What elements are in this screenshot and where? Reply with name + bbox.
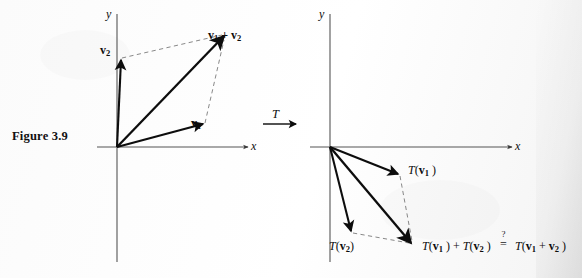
figure-caption: Figure 3.9 [12, 129, 68, 144]
label-sum-plus: + [218, 28, 231, 42]
label-sum-equation-lhs: T(v1 ) + T(v2 ) [422, 239, 491, 254]
figure-vector-graphics [0, 0, 582, 278]
label-question-equals-relation: ?= [500, 230, 507, 250]
right-panel-axes [310, 14, 512, 262]
label-v1-plus-v2: v1+v2 [208, 28, 241, 43]
label-Tv2-function: T [329, 239, 336, 253]
vector-v2 [117, 60, 121, 147]
label-v2: v2 [100, 43, 110, 58]
figure-container: Figure 3.9 y x v2 v1 v1+v2 T y x T(v1 ) … [0, 0, 582, 278]
label-lhs-function-1: T [422, 239, 429, 253]
right-vectors [330, 147, 411, 243]
label-rhs-function: T [515, 239, 522, 253]
right-y-axis-label: y [319, 7, 324, 22]
left-y-axis-label: y [106, 7, 111, 22]
label-sum-equation-rhs: T(v1 + v2 ) [515, 239, 566, 254]
left-dashed-parallelogram [122, 35, 224, 123]
left-x-axis-label: x [251, 139, 256, 154]
label-rhs-close: ) [559, 239, 566, 253]
left-vectors [117, 36, 224, 147]
vector-v1-plus-v2 [117, 36, 224, 147]
label-sum-sub2: 2 [237, 33, 241, 43]
label-v1: v1 [191, 116, 201, 131]
label-lhs-plus: + [450, 239, 463, 253]
label-v2-subscript: 2 [106, 48, 110, 58]
label-lhs-close-1: ) [443, 239, 450, 253]
label-v1-subscript: 1 [197, 121, 201, 131]
label-Tv1-function: T [408, 163, 415, 177]
right-x-axis-label: x [515, 139, 520, 154]
label-rhs-plus: + [536, 239, 549, 253]
label-Tv1: T(v1 ) [408, 163, 436, 178]
transform-label-T: T [272, 107, 279, 122]
dashed-edge-Tv2-to-sum [353, 233, 409, 243]
label-lhs-close-2: ) [484, 239, 491, 253]
equals-sign: = [500, 238, 507, 250]
label-Tv2: T(v2) [329, 239, 354, 254]
label-Tv1-close-paren: ) [429, 163, 436, 177]
label-Tv2-close-paren: ) [350, 239, 354, 253]
left-panel-axes [97, 14, 248, 262]
